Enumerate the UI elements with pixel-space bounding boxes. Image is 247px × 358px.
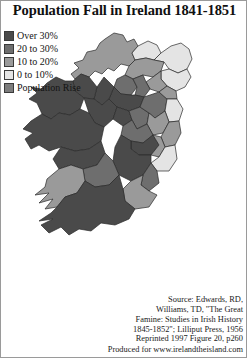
- map-figure: Population Fall in Ireland 1841-1851: [0, 0, 247, 358]
- source-line-1: Source: Edwards, RD,: [81, 295, 243, 305]
- page-title: Population Fall in Ireland 1841-1851: [1, 2, 247, 19]
- legend-swatch-0-to-10: [4, 70, 14, 80]
- legend-label-population-rise: Population Rise: [17, 82, 81, 93]
- legend-swatch-20-to-30: [4, 44, 14, 54]
- legend-label-0-to-10: 0 to 10%: [17, 69, 53, 80]
- legend-swatch-population-rise: [4, 83, 14, 93]
- legend-label-20-to-30: 20 to 30%: [17, 43, 58, 54]
- legend-item-0-to-10: 0 to 10%: [4, 68, 96, 81]
- legend-label-10-to-20: 10 to 20%: [17, 56, 58, 67]
- source-line-4: 1845-1852"; Lilliput Press, 1956: [81, 325, 243, 335]
- legend-swatch-over-30: [4, 31, 14, 41]
- source-line-2: Williams, TD, "The Great: [81, 305, 243, 315]
- legend-label-over-30: Over 30%: [17, 30, 58, 41]
- produced-for-credit: Produced for www.irelandtheisland.com: [53, 345, 243, 355]
- source-citation: Source: Edwards, RD, Williams, TD, "The …: [81, 295, 243, 344]
- legend-item-over-30: Over 30%: [4, 29, 96, 42]
- legend-item-10-to-20: 10 to 20%: [4, 55, 96, 68]
- legend-item-population-rise: Population Rise: [4, 81, 96, 94]
- legend-item-20-to-30: 20 to 30%: [4, 42, 96, 55]
- source-line-5: Reprinted 1997 Figure 20, p260: [81, 334, 243, 344]
- legend: Over 30% 20 to 30% 10 to 20% 0 to 10% Po…: [4, 29, 96, 94]
- legend-swatch-10-to-20: [4, 57, 14, 67]
- source-line-3: Famine: Studies in Irish History: [81, 315, 243, 325]
